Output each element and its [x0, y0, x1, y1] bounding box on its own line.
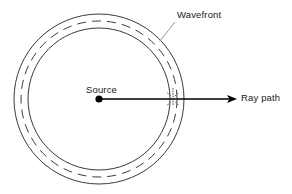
source-dot-icon — [95, 95, 102, 102]
intersection-marker-icon — [165, 89, 182, 106]
ray-path-label: Ray path — [241, 92, 280, 103]
wavefront-label: Wavefront — [177, 9, 221, 20]
source-label: Source — [86, 84, 117, 95]
wavefront-leader-line — [160, 22, 176, 42]
wavefront-ray-diagram: Wavefront Source Ray path — [0, 0, 292, 194]
